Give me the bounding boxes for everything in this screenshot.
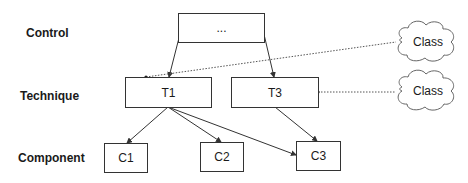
layer-label-technique: Technique [20, 89, 79, 103]
edge-t3-c3 [275, 107, 317, 141]
node-c1-label: C1 [118, 151, 133, 165]
node-c2-label: C2 [214, 150, 229, 164]
cloud-class-top: Class [400, 32, 456, 52]
layer-label-component: Component [18, 151, 85, 165]
dotted-t1-class [146, 42, 396, 77]
node-c3-label: C3 [311, 149, 326, 163]
node-t1: T1 [125, 77, 212, 108]
node-c3: C3 [296, 141, 341, 171]
node-t3-label: T3 [268, 86, 282, 100]
node-control-label: ... [216, 21, 226, 35]
node-control: ... [178, 13, 265, 43]
edge-t1-c1 [127, 107, 168, 143]
node-t3: T3 [231, 77, 319, 108]
node-c2: C2 [200, 142, 244, 172]
layer-label-control: Control [26, 26, 69, 40]
node-t1-label: T1 [161, 86, 175, 100]
node-c1: C1 [104, 143, 148, 173]
cloud-class-bottom: Class [400, 81, 456, 101]
edge-t1-c2 [168, 107, 221, 142]
